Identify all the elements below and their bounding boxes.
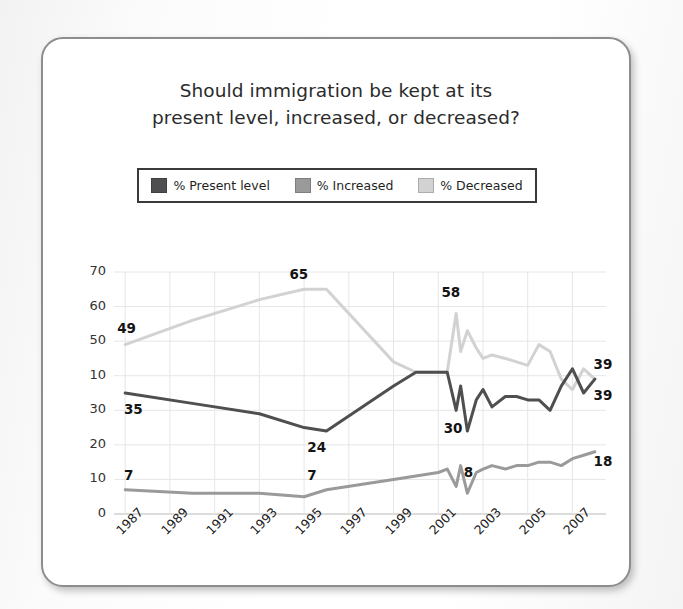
data-label: 8 xyxy=(464,464,473,480)
y-axis-tick-label: 30 xyxy=(72,401,106,416)
y-axis-tick-label: 60 xyxy=(72,298,106,313)
data-label: 35 xyxy=(124,401,143,417)
data-label: 30 xyxy=(444,420,463,436)
chart-card: Should immigration be kept at its presen… xyxy=(41,37,631,587)
y-axis-tick-label: 50 xyxy=(72,332,106,347)
y-axis-tick-label: 0 xyxy=(72,505,106,520)
data-label: 7 xyxy=(307,467,316,483)
y-axis-tick-label: 70 xyxy=(72,263,106,278)
y-axis-tick-label: 10 xyxy=(72,470,106,485)
y-axis-tick-label: 10 xyxy=(72,367,106,382)
data-label: 39 xyxy=(594,387,613,403)
y-axis-tick-label: 20 xyxy=(72,436,106,451)
series-line-decreased xyxy=(125,289,595,389)
chart-canvas xyxy=(43,39,629,585)
data-label: 24 xyxy=(307,439,326,455)
data-label: 65 xyxy=(289,266,308,282)
data-label: 39 xyxy=(594,356,613,372)
series-line-increased xyxy=(125,452,595,497)
data-label: 49 xyxy=(117,320,136,336)
series-line-present xyxy=(125,369,595,431)
data-label: 18 xyxy=(594,453,613,469)
plot-area: 7060501030201001987198919911993199519971… xyxy=(43,39,629,585)
data-label: 7 xyxy=(124,467,133,483)
data-label: 58 xyxy=(441,284,460,300)
